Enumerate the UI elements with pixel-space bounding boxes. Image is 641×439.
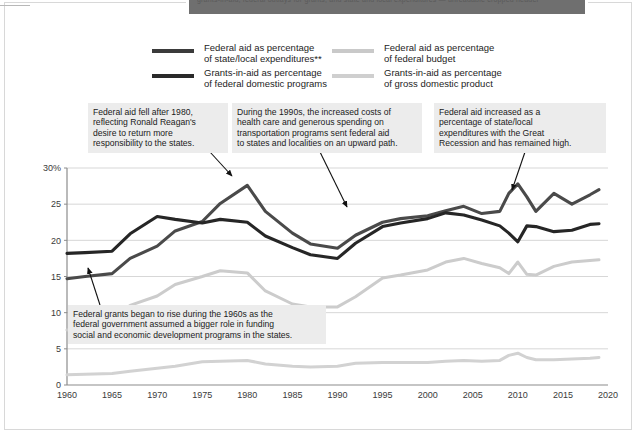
annotation-reagan: Federal aid fell after 1980, reflecting … [88, 103, 228, 153]
legend-label-federal-aid-state-local: Federal aid as percentage of state/local… [204, 42, 322, 64]
legend-swatch-federal-aid-state-local [152, 49, 194, 53]
banner-text: grants-in-aid, federal outlays for grant… [197, 0, 539, 3]
annotation-recession: Federal aid increased as a percentage of… [434, 103, 606, 153]
legend-item-grants-gdp: Grants-in-aid as percentage of gross dom… [332, 69, 552, 94]
legend-label-grants-gdp: Grants-in-aid as percentage of gross dom… [384, 67, 502, 89]
banner-rule [0, 5, 30, 6]
legend-swatch-grants-gdp [332, 74, 374, 78]
annotation-nineties: During the 1990s, the increased costs of… [232, 103, 422, 153]
legend-label-federal-aid-budget: Federal aid as percentage of federal bud… [384, 42, 494, 64]
legend-item-federal-aid-state-local: Federal aid as percentage of state/local… [152, 44, 342, 69]
legend-swatch-federal-aid-budget [332, 49, 374, 53]
cropped-top-banner: grants-in-aid, federal outlays for grant… [186, 0, 588, 14]
legend-item-grants-federal-domestic: Grants-in-aid as percentage of federal d… [152, 69, 342, 94]
legend-swatch-grants-federal-domestic [152, 74, 194, 78]
annotation-sixties: Federal grants began to rise during the … [68, 305, 326, 344]
legend-label-grants-federal-domestic: Grants-in-aid as percentage of federal d… [204, 67, 327, 89]
banner-shadow [186, 14, 588, 18]
legend-item-federal-aid-budget: Federal aid as percentage of federal bud… [332, 44, 552, 69]
chart-legend: Federal aid as percentage of state/local… [152, 44, 592, 94]
